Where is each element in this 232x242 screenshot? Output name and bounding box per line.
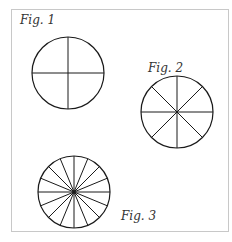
figures-canvas bbox=[0, 0, 232, 242]
fig-1-circle bbox=[32, 37, 104, 109]
fig-3-circle bbox=[38, 156, 110, 228]
fig-2-circle bbox=[141, 76, 213, 148]
